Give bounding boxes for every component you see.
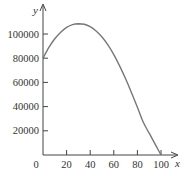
x-tick-label: 40 <box>85 159 96 170</box>
y-tick-label: 40000 <box>13 101 39 112</box>
x-tick-label: 20 <box>61 159 72 170</box>
y-tick-label: 60000 <box>13 77 39 88</box>
y-axis-label: y <box>32 4 38 16</box>
ticks: 20000400006000080000100000020406080100 <box>8 29 169 171</box>
x-tick-label: 80 <box>132 159 143 170</box>
x-axis-label: x <box>174 157 180 169</box>
y-tick-label: 20000 <box>13 125 39 136</box>
axes <box>40 4 178 158</box>
chart: 20000400006000080000100000020406080100 y… <box>0 0 189 176</box>
y-tick-label: 80000 <box>13 53 39 64</box>
y-tick-label: 100000 <box>8 29 40 40</box>
x-tick-label: 100 <box>153 159 169 170</box>
x-tick-label: 0 <box>33 159 38 170</box>
x-tick-label: 60 <box>109 159 120 170</box>
data-curve <box>43 24 161 155</box>
